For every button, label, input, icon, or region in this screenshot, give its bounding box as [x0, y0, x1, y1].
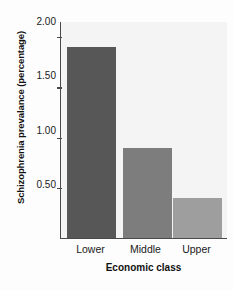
x-axis-title: Economic class: [60, 262, 227, 273]
plot-frame: [60, 22, 227, 239]
y-tick-label-2.00: 2.00: [22, 17, 56, 27]
y-tick-mark-1.50: [57, 87, 62, 88]
y-tick-label-0.50: 0.50: [22, 180, 56, 190]
y-tick-label-1.50: 1.50: [22, 71, 56, 81]
y-tick-label-1.00: 1.00: [22, 126, 56, 136]
y-axis-tick-labels: 2.00 1.50 1.00 0.50: [22, 0, 56, 291]
bar-lower: [67, 47, 116, 238]
x-tick-label-upper: Upper: [166, 243, 227, 255]
y-tick-mark-0.50: [57, 188, 62, 189]
y-tick-mark-1.00: [57, 138, 62, 139]
y-tick-mark-2.00: [57, 37, 62, 38]
x-tick-label-lower: Lower: [60, 243, 121, 255]
bar-middle: [123, 148, 172, 238]
plot-area: [61, 22, 227, 238]
bar-upper: [173, 198, 222, 238]
bar-chart-figure: Schizophrenia prevalance (percentage) 2.…: [0, 0, 233, 291]
x-axis-tick-labels: Lower Middle Upper: [60, 243, 227, 261]
